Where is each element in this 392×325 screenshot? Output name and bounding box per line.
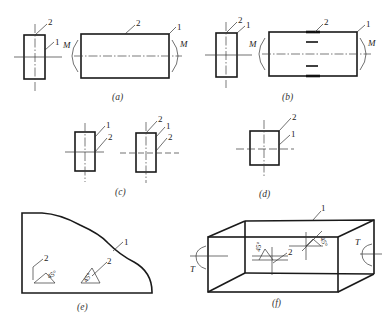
panel-e-angle-left: 45° xyxy=(46,269,59,281)
panel-c-right-label-2-top: 2 xyxy=(158,114,163,124)
panel-b-moment-right: M xyxy=(367,38,376,48)
panel-b: 2 1 2 1 M M (b) xyxy=(205,15,376,103)
torque-arc-right-icon xyxy=(362,244,372,266)
panel-a-caption: (a) xyxy=(112,92,123,103)
panel-f-label-1: 1 xyxy=(321,203,326,213)
panel-c: 1 2 2 1 2 (c) xyxy=(65,114,179,198)
panel-e-angle-right: 45° xyxy=(82,271,94,284)
panel-f-torque-left: T xyxy=(190,264,196,274)
panel-c-left-label-1: 1 xyxy=(106,120,111,130)
panel-f-box-front xyxy=(208,237,338,292)
weld-diagram-figure: 2 1 2 1 M M (a) 2 1 2 1 xyxy=(0,0,392,325)
panel-a-label-1-side: 1 xyxy=(55,37,60,47)
panel-c-caption: (c) xyxy=(115,187,126,198)
panel-b-moment-left: M xyxy=(248,39,257,49)
panel-d-rect xyxy=(250,131,279,165)
panel-f-torque-right: T xyxy=(355,237,361,247)
panel-e-label-1: 1 xyxy=(124,237,129,247)
panel-f-label-2: 2 xyxy=(288,247,293,257)
panel-c-right-label-1: 1 xyxy=(166,121,171,131)
panel-e-caption: (e) xyxy=(77,302,88,313)
panel-d-caption: (d) xyxy=(259,189,270,200)
panel-b-caption: (b) xyxy=(282,92,293,103)
panel-c-right-label-2: 2 xyxy=(168,132,173,142)
panel-f: 1 T T 2 45° 45° (f) xyxy=(190,203,382,309)
panel-a-label-2-side: 2 xyxy=(48,17,53,27)
panel-a-moment-left: M xyxy=(62,40,71,50)
panel-f-angle-left: 45° xyxy=(254,241,264,252)
panel-d-label-2: 2 xyxy=(292,112,297,122)
panel-a-label-1: 1 xyxy=(177,22,182,32)
panel-e: 1 2 45° 2 45° (e) xyxy=(22,213,152,313)
panel-e-label-2-right: 2 xyxy=(107,256,112,266)
panel-a: 2 1 2 1 M M (a) xyxy=(14,17,188,103)
panel-d: 2 1 (d) xyxy=(236,112,297,200)
panel-a-moment-right: M xyxy=(179,39,188,49)
panel-c-left-label-2: 2 xyxy=(108,132,113,142)
panel-f-caption: (f) xyxy=(272,298,281,309)
torque-arc-left-icon xyxy=(196,246,206,269)
panel-b-label-1-side: 1 xyxy=(246,20,251,30)
panel-a-label-2: 2 xyxy=(136,18,141,28)
panel-d-label-1: 1 xyxy=(291,129,296,139)
panel-b-label-2-side: 2 xyxy=(238,15,243,25)
panel-b-label-1: 1 xyxy=(366,19,371,29)
panel-b-label-2: 2 xyxy=(324,17,329,27)
panel-e-label-2-left: 2 xyxy=(44,253,49,263)
